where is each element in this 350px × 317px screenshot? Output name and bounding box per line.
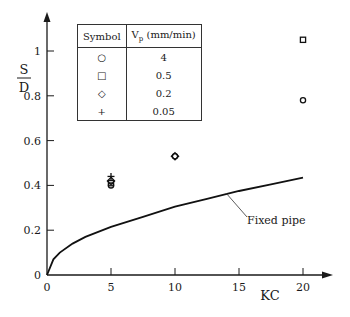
diamond-marker-icon: ◇	[78, 84, 127, 102]
svg-text:10: 10	[168, 281, 182, 294]
svg-text:0: 0	[34, 269, 41, 282]
y-axis-arrow-icon	[44, 12, 51, 22]
svg-text:5: 5	[108, 281, 115, 294]
legend-header-vp: Vp (mm/min)	[126, 25, 201, 48]
legend-row: □ 0.5	[78, 66, 202, 84]
circle-marker-icon: ○	[78, 48, 127, 67]
svg-text:15: 15	[232, 281, 246, 294]
legend-row: + 0.05	[78, 102, 202, 121]
legend-value: 4	[126, 48, 201, 67]
svg-text:0.2: 0.2	[24, 224, 42, 237]
annotation-leader-line	[226, 193, 247, 217]
y-axis-label-numerator: S	[20, 62, 29, 77]
legend-header-symbol: Symbol	[78, 25, 127, 48]
svg-text:0.4: 0.4	[24, 179, 42, 192]
svg-text:0.6: 0.6	[24, 135, 42, 148]
svg-text:1: 1	[34, 45, 41, 58]
x-axis-arrow-icon	[322, 272, 333, 279]
svg-text:0: 0	[44, 281, 51, 294]
legend-row: ○ 4	[78, 48, 202, 67]
legend-value: 0.05	[126, 102, 201, 121]
svg-text:20: 20	[296, 281, 310, 294]
plus-marker-icon: +	[78, 102, 127, 121]
legend-row: ◇ 0.2	[78, 84, 202, 102]
y-axis-label-denominator: D	[19, 80, 29, 95]
legend-table: Symbol Vp (mm/min) ○ 4 □ 0.5 ◇ 0.2 + 0.0…	[77, 24, 202, 121]
legend-value: 0.5	[126, 66, 201, 84]
legend-value: 0.2	[126, 84, 201, 102]
square-marker-icon: □	[78, 66, 127, 84]
x-axis-label: KC	[260, 288, 279, 303]
fixed-pipe-annotation: Fixed pipe	[247, 214, 306, 227]
